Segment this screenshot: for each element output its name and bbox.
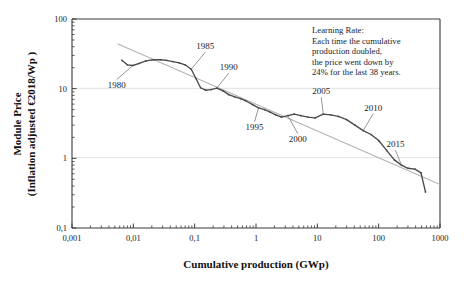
data-point — [234, 96, 236, 98]
data-point — [386, 150, 388, 152]
x-tick-label: 0,1 — [189, 233, 200, 243]
data-point — [330, 114, 332, 116]
data-point — [166, 59, 168, 61]
data-point-markers — [121, 59, 426, 193]
note-line-1: Learning Rate: — [312, 25, 364, 35]
note-line-3: production doubled, — [312, 46, 382, 56]
note-line-2: Each time the cumulative — [312, 36, 401, 46]
data-point — [407, 167, 409, 169]
data-point — [153, 59, 155, 61]
data-point — [138, 63, 140, 65]
y-axis-title-line1: Module Price — [11, 92, 23, 155]
y-tick-label: 100 — [54, 14, 67, 24]
data-point — [264, 109, 266, 111]
year-label-2015: 2015 — [386, 139, 405, 149]
annotation-leader-line — [288, 116, 298, 134]
annotation-leader-line — [363, 114, 373, 131]
data-point — [195, 78, 197, 80]
data-point — [228, 94, 230, 96]
x-tick-label: 10 — [313, 233, 322, 243]
x-tick-label: 100 — [372, 233, 385, 243]
x-tick-label: 1 — [254, 233, 258, 243]
x-axis-title: Cumulative production (GWp) — [183, 258, 329, 271]
data-point — [160, 59, 162, 61]
data-point — [210, 89, 212, 91]
annotation-leader-line — [255, 108, 259, 122]
data-point — [281, 116, 283, 118]
x-axis-tick-labels: 0,0010,010,11101001000 — [62, 233, 448, 243]
data-point — [178, 62, 180, 64]
data-point — [240, 98, 242, 100]
x-axis-ticks — [72, 224, 440, 229]
annotation-leader-line — [191, 52, 205, 69]
x-tick-label: 0,001 — [62, 233, 81, 243]
y-axis-tick-labels: 1001010,1 — [54, 14, 67, 233]
data-point — [246, 100, 248, 102]
year-label-1980: 1980 — [108, 80, 127, 90]
data-point — [346, 119, 348, 121]
year-label-1985: 1985 — [196, 41, 215, 51]
data-point — [425, 191, 427, 193]
y-axis-ticks — [72, 19, 77, 228]
data-point — [205, 89, 207, 91]
data-point — [184, 64, 186, 66]
data-point — [127, 64, 129, 66]
annotation-leader-line — [217, 73, 229, 88]
data-point — [145, 60, 147, 62]
data-point — [337, 116, 339, 118]
annotation-leader-line — [321, 97, 323, 114]
data-point — [370, 134, 372, 136]
x-tick-label: 1000 — [432, 233, 449, 243]
data-point — [269, 111, 271, 113]
data-point — [222, 90, 224, 92]
year-label-1995: 1995 — [246, 122, 265, 132]
data-point — [307, 116, 309, 118]
note-line-4: the price went down by — [312, 57, 394, 67]
data-point — [393, 159, 395, 161]
year-label-2000: 2000 — [289, 134, 308, 144]
data-point — [252, 104, 254, 106]
x-tick-label: 0,01 — [126, 233, 141, 243]
y-tick-label: 10 — [59, 84, 68, 94]
note-line-5: 24% for the last 38 years. — [312, 67, 401, 77]
data-point — [200, 87, 202, 89]
data-point — [275, 114, 277, 116]
data-point — [300, 115, 302, 117]
price-curve-series — [121, 59, 426, 193]
annotation-leader-line — [117, 66, 133, 80]
y-axis-title-line2: (Inflation adjusted €2018/Wp ) — [25, 51, 38, 196]
figure-container: 1001010,1 0,0010,010,11101001000 1980198… — [0, 0, 464, 282]
data-point — [414, 168, 416, 170]
data-point — [354, 124, 356, 126]
learning-curve-chart: 1001010,1 0,0010,010,11101001000 1980198… — [0, 0, 464, 282]
year-label-2005: 2005 — [312, 86, 331, 96]
year-label-1990: 1990 — [220, 62, 239, 72]
learning-rate-note: Learning Rate:Each time the cumulativepr… — [312, 25, 401, 77]
data-point — [121, 59, 123, 61]
data-point — [378, 140, 380, 142]
data-point — [314, 117, 316, 119]
year-label-2010: 2010 — [364, 103, 383, 113]
y-tick-label: 1 — [63, 153, 67, 163]
y-tick-label: 0,1 — [56, 223, 67, 233]
data-point — [172, 61, 174, 63]
data-point — [420, 172, 422, 174]
data-point — [293, 113, 295, 115]
